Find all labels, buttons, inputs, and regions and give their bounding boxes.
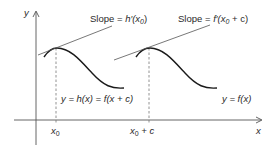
y-axis-label: y (23, 7, 30, 18)
slope-label-f: Slope = f′(x0 + c) (178, 13, 248, 25)
tick-label-x0-plus-c: x0 + c (129, 125, 154, 137)
original-curve-f (136, 48, 217, 88)
tick-label-x0: x0 (50, 125, 60, 137)
original-curve-label: y = f(x) (221, 93, 251, 104)
tangent-line-h (38, 26, 112, 55)
shift-diagram: y x Slope = h′(x0) Slope = f′(x0 + c) y … (0, 0, 274, 149)
slope-label-h: Slope = h′(x0) (90, 13, 147, 25)
x-axis-label: x (255, 125, 262, 136)
tangent-line-f (114, 25, 210, 60)
shifted-curve-label: y = h(x) = f(x + c) (60, 93, 133, 104)
